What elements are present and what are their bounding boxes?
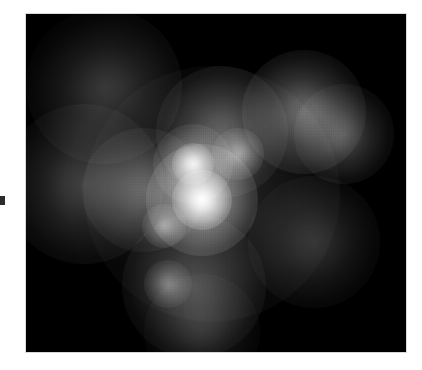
- intensity-blob-knot-south: [144, 260, 192, 308]
- intensity-blob-arm-west: [26, 104, 164, 264]
- intensity-blob-arm-south: [122, 214, 266, 352]
- intensity-blob-core-primary: [172, 170, 232, 230]
- margin-tick-mark: [0, 196, 5, 205]
- intensity-blob-bridge-center-north: [156, 66, 288, 198]
- astronomical-image-panel: [26, 14, 406, 352]
- figure-page: [0, 0, 422, 370]
- intensity-blob-core-secondary: [172, 143, 214, 185]
- intensity-blob-arm-northwest: [26, 14, 182, 164]
- grayscale-intensity-map: [26, 14, 406, 352]
- intensity-blob-core-primary-halo: [146, 144, 258, 256]
- intensity-blob-knot-northeast: [212, 128, 264, 180]
- intensity-blob-halo-diffuse: [84, 66, 340, 322]
- intensity-blob-extension-southeast: [248, 176, 380, 308]
- intensity-blob-clump-east: [294, 84, 394, 184]
- intensity-blob-core-secondary-halo: [153, 124, 233, 204]
- intensity-blob-clump-northeast: [242, 50, 366, 174]
- intensity-blob-tail-south: [144, 274, 260, 352]
- intensity-blob-knot-southwest: [142, 204, 186, 248]
- intensity-blob-bridge-center-west: [82, 128, 206, 252]
